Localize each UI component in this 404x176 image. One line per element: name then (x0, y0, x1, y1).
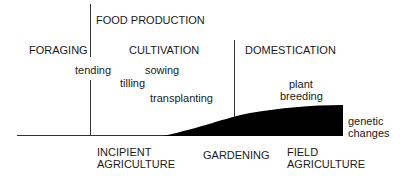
tilling-label: tilling (120, 77, 145, 90)
agriculture-label-1: AGRICULTURE (97, 158, 175, 171)
transplanting-label: transplanting (150, 92, 213, 105)
food-production-label: FOOD PRODUCTION (96, 14, 205, 27)
foraging-label: FORAGING (29, 44, 88, 57)
breeding-label: breeding (280, 90, 323, 103)
tending-label: tending (75, 64, 111, 77)
sowing-label: sowing (145, 64, 179, 77)
cultivation-label: CULTIVATION (129, 44, 199, 57)
agriculture-label-2: AGRICULTURE (287, 158, 365, 171)
changes-label: changes (348, 127, 390, 140)
domestication-label: DOMESTICATION (245, 44, 336, 57)
gardening-label: GARDENING (203, 149, 270, 162)
